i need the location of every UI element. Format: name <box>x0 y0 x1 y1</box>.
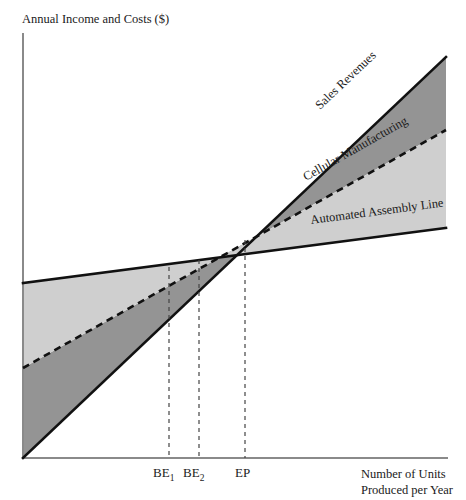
svg-text:BE2: BE2 <box>183 465 205 483</box>
series-line-sales-revenues <box>23 57 446 458</box>
tick-be2-sub: 2 <box>200 473 205 483</box>
tick-be1-base: BE <box>153 465 170 480</box>
breakeven-chart-canvas: Annual Income and Costs ($) Number of Un… <box>0 0 466 500</box>
tick-be2-base: BE <box>183 465 200 480</box>
curve-label-sales-revenues: Sales Revenues <box>312 48 378 112</box>
tick-label-ep: EP <box>235 465 250 480</box>
series-line-cellular-manufacturing <box>23 130 446 368</box>
tick-label-be2: BE2 <box>183 465 205 483</box>
tick-label-be1: BE1 <box>153 465 175 483</box>
series-line-automated-assembly-line <box>23 228 446 283</box>
x-axis-title-line2: Produced per Year <box>361 483 454 497</box>
svg-text:BE1: BE1 <box>153 465 175 483</box>
tick-be1-sub: 1 <box>170 473 175 483</box>
x-axis-title-line1: Number of Units <box>361 467 446 481</box>
y-axis-title: Annual Income and Costs ($) <box>22 12 169 26</box>
breakeven-chart-figure: Annual Income and Costs ($) Number of Un… <box>0 0 466 500</box>
tick-ep-text: EP <box>235 465 250 480</box>
